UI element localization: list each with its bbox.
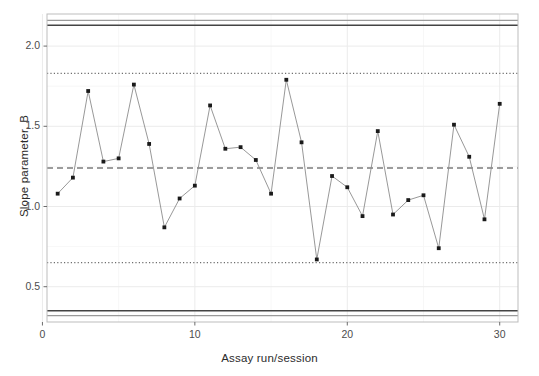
- y-axis-tick-label: 1.5: [6, 119, 40, 131]
- data-point[interactable]: [86, 89, 90, 93]
- x-axis-tick-label: 20: [327, 328, 367, 340]
- data-point[interactable]: [452, 123, 456, 127]
- data-point[interactable]: [467, 155, 471, 159]
- y-axis-tick-label: 1.0: [6, 200, 40, 212]
- plot-area: [0, 0, 539, 376]
- x-axis-title: Assay run/session: [0, 352, 539, 364]
- control-chart: Slope parameter, B Assay run/session 0.5…: [0, 0, 539, 376]
- data-point[interactable]: [269, 192, 273, 196]
- data-point[interactable]: [239, 145, 243, 149]
- data-point[interactable]: [345, 185, 349, 189]
- data-point[interactable]: [406, 198, 410, 202]
- y-axis-tick-label: 0.5: [6, 280, 40, 292]
- data-point[interactable]: [376, 129, 380, 133]
- data-point[interactable]: [361, 214, 365, 218]
- data-point[interactable]: [330, 174, 334, 178]
- data-point[interactable]: [56, 192, 60, 196]
- data-point[interactable]: [223, 147, 227, 151]
- y-axis-tick-label: 2.0: [6, 39, 40, 51]
- data-point[interactable]: [132, 83, 136, 87]
- x-axis-tick-label: 30: [480, 328, 520, 340]
- data-point[interactable]: [193, 184, 197, 188]
- data-point[interactable]: [422, 193, 426, 197]
- data-point[interactable]: [254, 158, 258, 162]
- data-point[interactable]: [162, 225, 166, 229]
- data-point[interactable]: [437, 246, 441, 250]
- data-point[interactable]: [315, 258, 319, 262]
- y-axis-title: Slope parameter, B: [18, 96, 30, 236]
- data-point[interactable]: [300, 140, 304, 144]
- x-axis-tick-label: 0: [22, 328, 62, 340]
- data-point[interactable]: [498, 102, 502, 106]
- x-axis-tick-label: 10: [175, 328, 215, 340]
- data-point[interactable]: [483, 217, 487, 221]
- data-point[interactable]: [102, 160, 106, 164]
- data-point[interactable]: [71, 176, 75, 180]
- data-point[interactable]: [284, 78, 288, 82]
- data-point[interactable]: [178, 197, 182, 201]
- data-point[interactable]: [208, 104, 212, 108]
- data-point[interactable]: [391, 213, 395, 217]
- data-point[interactable]: [147, 142, 151, 146]
- data-point[interactable]: [117, 156, 121, 160]
